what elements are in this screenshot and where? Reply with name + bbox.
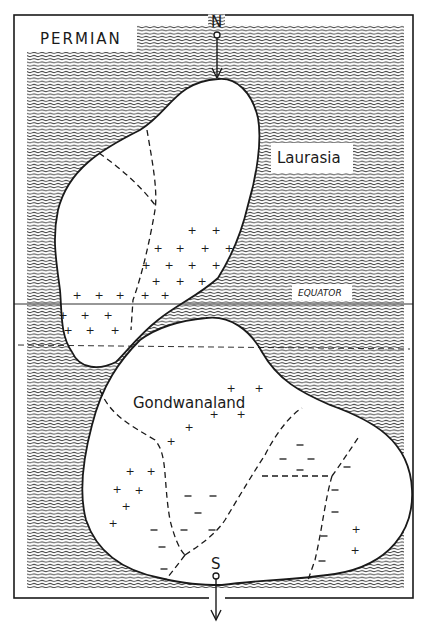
plus-symbol: +	[103, 309, 112, 322]
plus-symbol: +	[141, 259, 150, 272]
gondwanaland-label: Gondwanaland	[133, 394, 245, 412]
north-pole-point-icon	[214, 32, 220, 38]
south-pole-point-icon	[213, 573, 219, 579]
plus-symbol: +	[134, 484, 143, 497]
south-label: S	[211, 555, 221, 573]
plus-symbol: +	[85, 324, 94, 337]
equator-label: EQUATOR	[298, 288, 342, 298]
plus-symbol: +	[236, 408, 245, 421]
plus-symbol: +	[187, 224, 196, 237]
plus-symbol: +	[160, 289, 169, 302]
plus-symbol: +	[112, 483, 121, 496]
plus-symbol: +	[153, 242, 162, 255]
plus-symbol: +	[175, 242, 184, 255]
plus-symbol: +	[80, 309, 89, 322]
plus-symbol: +	[146, 465, 155, 478]
permian-paleogeographic-map: PERMIAN Laurasia Gondwanaland EQUATOR N …	[0, 0, 428, 627]
plus-symbol: +	[351, 523, 360, 536]
plus-symbol: +	[197, 275, 206, 288]
plus-symbol: +	[164, 259, 173, 272]
plus-symbol: +	[58, 309, 67, 322]
plus-symbol: +	[140, 289, 149, 302]
plus-symbol: +	[200, 242, 209, 255]
plus-symbol: +	[63, 324, 72, 337]
plus-symbol: +	[121, 500, 130, 513]
plus-symbol: +	[115, 289, 124, 302]
plus-symbol: +	[110, 324, 119, 337]
plus-symbol: +	[175, 275, 184, 288]
plus-symbol: +	[209, 408, 218, 421]
plus-symbol: +	[350, 544, 359, 557]
plus-symbol: +	[72, 289, 81, 302]
plus-symbol: +	[151, 275, 160, 288]
north-label: N	[211, 13, 222, 31]
plus-symbol: +	[108, 517, 117, 530]
plus-symbol: +	[187, 259, 196, 272]
plus-symbol: +	[211, 259, 220, 272]
plus-symbol: +	[254, 382, 263, 395]
plus-symbol: +	[226, 382, 235, 395]
plus-symbol: +	[211, 224, 220, 237]
plus-symbol: +	[125, 465, 134, 478]
laurasia-label: Laurasia	[277, 149, 341, 167]
plus-symbol: +	[224, 242, 233, 255]
plus-symbol: +	[184, 421, 193, 434]
map-title: PERMIAN	[40, 30, 122, 48]
plus-symbol: +	[166, 435, 175, 448]
plus-symbol: +	[94, 289, 103, 302]
